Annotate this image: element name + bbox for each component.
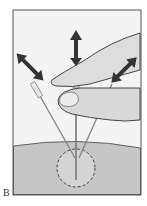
fna-illustration <box>0 0 147 206</box>
panel-label: B <box>3 187 10 198</box>
